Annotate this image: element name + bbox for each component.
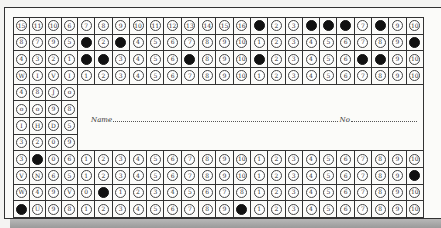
punch-cell — [320, 18, 337, 35]
hole-icon: 7 — [184, 170, 195, 181]
hole-icon: 1 — [64, 54, 75, 65]
punch-cell: 7 — [216, 185, 233, 202]
punch-cell: 9 — [46, 35, 62, 52]
punch-cell: 6 — [164, 168, 181, 185]
punch-cell: 9 — [389, 18, 406, 35]
card-shadow — [10, 219, 441, 228]
hole-icon: 0 — [48, 154, 59, 165]
hole-icon: 1 — [254, 70, 265, 81]
hole-icon: 1 — [81, 170, 92, 181]
punch-cell: 4 — [130, 151, 147, 168]
punch-cell: 4 — [130, 201, 147, 218]
punched-hole-icon — [115, 37, 126, 48]
hole-icon: 2 — [98, 204, 109, 215]
punch-cell: 8 — [62, 201, 78, 218]
punch-cell: 2 — [95, 35, 112, 52]
punched-hole-icon — [409, 170, 420, 181]
punch-cell: 5 — [62, 118, 78, 135]
punched-hole-icon — [184, 54, 195, 65]
punch-cell: 10 — [46, 18, 62, 35]
number-field[interactable] — [351, 121, 417, 122]
punch-cell: 8 — [372, 68, 389, 85]
hole-icon: 1 — [81, 70, 92, 81]
hole-icon: 4 — [133, 154, 144, 165]
punch-cell: D — [46, 118, 62, 135]
punch-cell: 4 — [303, 168, 320, 185]
hole-icon: 2 — [271, 70, 282, 81]
name-panel: NameNo — [78, 85, 424, 152]
hole-icon: 9 — [48, 187, 59, 198]
hole-icon: V — [16, 170, 27, 181]
punch-cell: 0 — [78, 185, 95, 202]
punch-cell: 2 — [268, 18, 285, 35]
name-field[interactable] — [113, 121, 337, 122]
punch-cell: 6 — [62, 18, 78, 35]
punch-cell: 3 — [286, 18, 303, 35]
punch-cell: 2 — [95, 68, 112, 85]
hole-icon: V — [64, 187, 75, 198]
punch-cell: 9 — [389, 51, 406, 68]
punch-cell: 2 — [268, 51, 285, 68]
hole-icon: 8 — [202, 70, 213, 81]
punch-cell: 5 — [147, 201, 164, 218]
punch-cell: W — [14, 185, 30, 202]
punch-cell: V — [46, 68, 62, 85]
punch-cell: H — [30, 118, 46, 135]
punched-hole-icon — [254, 54, 265, 65]
punch-cell: 7 — [78, 18, 95, 35]
hole-icon: 6 — [167, 70, 178, 81]
punch-cell: 8 — [372, 35, 389, 52]
hole-icon: 6 — [167, 54, 178, 65]
punched-hole-icon — [236, 204, 247, 215]
hole-icon: 4 — [133, 37, 144, 48]
punch-cell: 7 — [355, 18, 372, 35]
punch-cell: 8 — [372, 185, 389, 202]
hole-icon: o — [16, 104, 27, 115]
punch-cell: 10 — [407, 201, 424, 218]
punch-cell: I — [30, 68, 46, 85]
punch-cell: 9 — [46, 101, 62, 118]
hole-icon: 4 — [306, 170, 317, 181]
punch-cell — [30, 151, 46, 168]
hole-icon: 10 — [236, 170, 247, 181]
hole-icon: 9 — [219, 54, 230, 65]
hole-icon: 3 — [115, 54, 126, 65]
punched-hole-icon — [340, 20, 351, 31]
hole-icon: 3 — [288, 70, 299, 81]
punch-cell: 11 — [30, 18, 46, 35]
punch-cell: 3 — [113, 51, 130, 68]
hole-icon: H — [32, 120, 43, 131]
punch-cell: 4 — [303, 35, 320, 52]
punched-hole-icon — [16, 204, 27, 215]
punch-cell: 7 — [30, 35, 46, 52]
punch-cell: I — [62, 68, 78, 85]
hole-icon: 9 — [219, 70, 230, 81]
hole-icon: 10 — [133, 20, 144, 31]
punch-cell: 9 — [216, 201, 233, 218]
punch-cell: 3 — [286, 35, 303, 52]
hole-icon: 2 — [98, 37, 109, 48]
punch-cell: 5 — [147, 51, 164, 68]
hole-icon: 12 — [167, 20, 178, 31]
punch-cell: 9 — [113, 18, 130, 35]
punch-cell — [14, 201, 30, 218]
punch-cell: 5 — [320, 201, 337, 218]
hole-icon: 0 — [81, 187, 92, 198]
punched-hole-icon — [323, 20, 334, 31]
punch-cell — [355, 51, 372, 68]
hole-icon: 7 — [357, 20, 368, 31]
hole-icon: 5 — [184, 187, 195, 198]
hole-icon: 3 — [288, 37, 299, 48]
hole-icon: I — [32, 70, 43, 81]
punch-cell: 0 — [46, 151, 62, 168]
hole-icon: 9 — [392, 37, 403, 48]
hole-icon: 6 — [340, 170, 351, 181]
punch-cell: 6 — [164, 201, 181, 218]
hole-icon: 5 — [323, 204, 334, 215]
hole-icon: 7 — [184, 154, 195, 165]
hole-icon: 10 — [48, 20, 59, 31]
hole-icon: 8 — [202, 54, 213, 65]
hole-icon: 4 — [16, 87, 27, 98]
hole-icon: 6 — [167, 154, 178, 165]
punch-cell — [251, 51, 268, 68]
